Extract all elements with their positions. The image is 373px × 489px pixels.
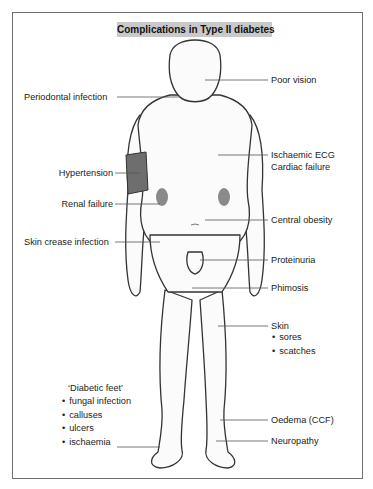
left-leg	[152, 290, 193, 468]
label-poor-vision: Poor vision	[271, 74, 316, 86]
label-proteinuria: Proteinuria	[271, 254, 315, 266]
label-phimosis: Phimosis	[271, 282, 308, 294]
label-oedema: Oedema (CCF)	[271, 414, 334, 426]
head	[169, 40, 220, 102]
label-cardiac-failure: Cardiac failure	[271, 161, 330, 173]
label-skin-crease-infection: Skin crease infection	[24, 236, 109, 248]
label-renal-failure: Renal failure	[20, 198, 113, 210]
torso	[138, 95, 252, 251]
diabetic-feet-heading: ‘Diabetic feet’	[68, 382, 123, 394]
feet-item: fungal infection	[62, 395, 131, 409]
skin-item: sores	[272, 331, 315, 345]
label-hypertension: Hypertension	[20, 167, 113, 179]
kidney-right-icon	[218, 188, 230, 206]
label-neuropathy: Neuropathy	[271, 435, 319, 447]
diabetic-feet-list: fungal infection calluses ulcers ischaem…	[62, 395, 131, 449]
feet-item: ulcers	[62, 422, 131, 436]
kidney-left-icon	[156, 188, 168, 206]
skin-list: sores scatches	[272, 331, 315, 358]
label-central-obesity: Central obesity	[271, 214, 332, 226]
label-ischaemic-ecg: Ischaemic ECG	[271, 149, 335, 161]
skin-item: scatches	[272, 345, 315, 359]
label-periodontal-infection: Periodontal infection	[24, 91, 107, 103]
feet-item: calluses	[62, 409, 131, 423]
feet-item: ischaemia	[62, 436, 131, 450]
